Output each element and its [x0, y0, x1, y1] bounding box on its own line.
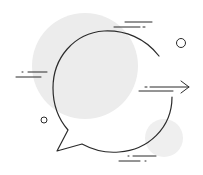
small-circle-decoration-left — [41, 117, 47, 123]
speech-bubble-illustration — [0, 0, 203, 175]
small-background-blob — [145, 119, 183, 157]
speed-lines-bottom — [119, 156, 156, 161]
arrow-right-icon — [139, 81, 189, 93]
large-background-blob — [32, 13, 138, 119]
small-circle-decoration-right — [177, 39, 186, 48]
